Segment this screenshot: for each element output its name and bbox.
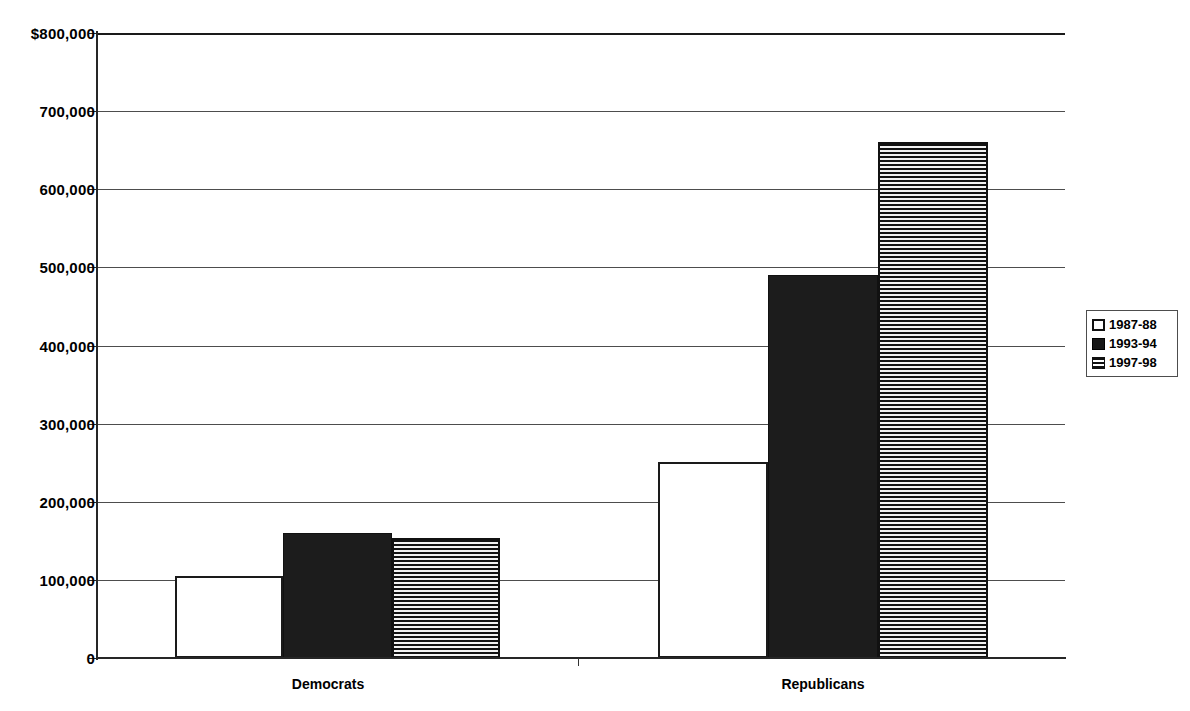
plot-area (97, 33, 1065, 658)
bar-democrats-1997-98 (392, 538, 500, 658)
legend-label-1997-98: 1997-98 (1109, 356, 1157, 369)
bar-republicans-1993-94 (768, 275, 878, 658)
bar-democrats-1993-94 (283, 533, 392, 658)
y-axis-label-700000: 700,000 (39, 103, 95, 120)
bar-republicans-1997-98 (878, 142, 988, 658)
legend-item-1997-98: 1997-98 (1092, 353, 1173, 372)
y-axis-label-200000: 200,000 (39, 494, 95, 511)
x-axis-label-democrats: Democrats (292, 676, 364, 692)
y-axis-label-0: 0 (86, 650, 95, 667)
x-tick-category-divider (578, 658, 579, 666)
legend-label-1993-94: 1993-94 (1109, 337, 1157, 350)
legend-swatch-solid-black-icon (1092, 338, 1105, 350)
bar-democrats-1987-88 (175, 576, 283, 658)
legend-swatch-striped-icon (1092, 357, 1105, 369)
x-axis-label-republicans: Republicans (781, 676, 864, 692)
legend-item-1987-88: 1987-88 (1092, 315, 1173, 334)
y-axis-label-500000: 500,000 (39, 259, 95, 276)
y-axis-label-600000: 600,000 (39, 181, 95, 198)
y-axis-label-300000: 300,000 (39, 416, 95, 433)
y-axis-label-400000: 400,000 (39, 338, 95, 355)
bar-chart: $800,000 700,000 600,000 500,000 400,000… (0, 0, 1190, 711)
chart-legend: 1987-88 1993-94 1997-98 (1086, 310, 1178, 377)
gridline-700000 (97, 111, 1065, 112)
legend-item-1993-94: 1993-94 (1092, 334, 1173, 353)
y-axis-label-800000: $800,000 (31, 25, 95, 42)
legend-swatch-open-white-icon (1092, 319, 1105, 331)
bar-republicans-1987-88 (658, 462, 768, 658)
y-axis-label-100000: 100,000 (39, 572, 95, 589)
legend-label-1987-88: 1987-88 (1109, 318, 1157, 331)
x-axis-line (96, 657, 1066, 659)
plot-top-border (97, 33, 1065, 35)
